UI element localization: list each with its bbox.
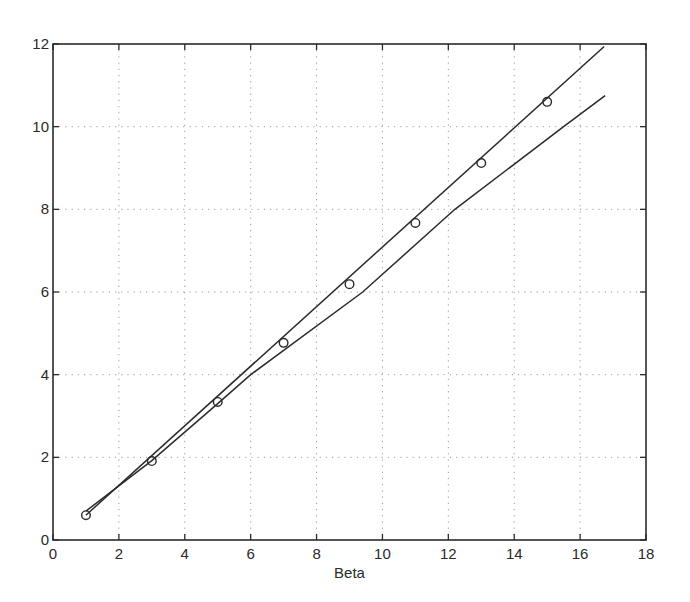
x-axis-label: Beta (334, 564, 366, 581)
y-tick-label: 8 (41, 200, 49, 217)
y-tick-label: 4 (41, 366, 49, 383)
x-tick-label: 16 (572, 545, 589, 562)
lower-line (86, 96, 605, 511)
x-tick-label: 12 (440, 545, 457, 562)
axis-ticks (53, 44, 646, 540)
x-tick-label: 14 (506, 545, 523, 562)
plot-frame (53, 44, 646, 540)
x-tick-label: 2 (115, 545, 123, 562)
plot-series (82, 47, 605, 520)
y-tick-label: 6 (41, 283, 49, 300)
x-tick-label: 4 (181, 545, 189, 562)
y-tick-label: 10 (32, 118, 49, 135)
x-tick-label: 10 (374, 545, 391, 562)
x-tick-labels: 024681012141618 (49, 545, 655, 562)
circle-marker (279, 339, 288, 348)
line-chart: 024681012141618 024681012 Beta (0, 0, 690, 602)
circle-marker (477, 159, 486, 168)
y-tick-labels: 024681012 (32, 35, 49, 548)
x-tick-label: 18 (638, 545, 655, 562)
circle-marker (213, 398, 222, 407)
upper-line (86, 47, 604, 516)
circle-marker (345, 280, 354, 289)
grid-lines (53, 44, 646, 540)
circle-marker (411, 219, 420, 228)
y-tick-label: 0 (41, 531, 49, 548)
x-tick-label: 0 (49, 545, 57, 562)
x-tick-label: 8 (312, 545, 320, 562)
x-tick-label: 6 (246, 545, 254, 562)
y-tick-label: 2 (41, 448, 49, 465)
y-tick-label: 12 (32, 35, 49, 52)
